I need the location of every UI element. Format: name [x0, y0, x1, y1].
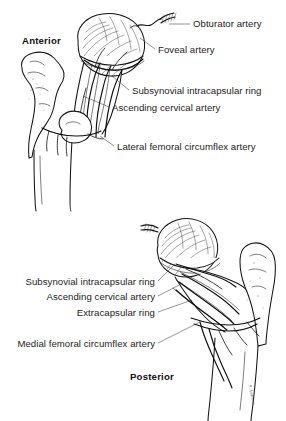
label-subsynovial-intracapsular-ring-2: Subsynovial intracapsular ring [26, 276, 155, 287]
orientation-label-anterior: Anterior [22, 35, 61, 46]
label-ascending-cervical-artery: Ascending cervical artery [112, 102, 221, 113]
shaft-inner-line-anterior [40, 156, 42, 204]
foveal-artery-stub-posterior [141, 224, 158, 232]
figure-canvas: R. Anderson Anterior Obturator artery Fo… [0, 0, 286, 421]
greater-trochanter-posterior [240, 243, 275, 346]
label-foveal-artery: Foveal artery [158, 44, 215, 55]
leader-lateral-femoral-circumflex-artery [100, 136, 114, 146]
label-ascending-cervical-artery-2: Ascending cervical artery [47, 291, 156, 302]
posterior-panel-labels: Subsynovial intracapsular ring Ascending… [17, 276, 174, 382]
leader-ascending-cervical-artery [83, 96, 109, 107]
medial-circumflex-branch-a [219, 331, 232, 355]
femoral-shaft-posterior-medial [208, 338, 215, 421]
lateral-circumflex-branch-c [47, 131, 49, 151]
leader-ascending-cervical-artery-2 [158, 283, 183, 296]
femoral-shaft-anterior-medial [70, 140, 72, 211]
lesser-trochanter-anterior [59, 111, 92, 143]
label-subsynovial-intracapsular-ring: Subsynovial intracapsular ring [132, 85, 261, 96]
lateral-circumflex-branch-b [66, 137, 67, 156]
extracapsular-ring-vessel [191, 318, 260, 325]
label-extracapsular-ring: Extracapsular ring [77, 307, 155, 318]
leader-medial-femoral-circumflex-artery [158, 322, 200, 343]
femoral-shaft-anterior-lateral [34, 150, 36, 211]
obturator-artery-vessel [160, 13, 176, 23]
lateral-circumflex-branch-a [57, 135, 58, 155]
foveal-artery-vessel [137, 19, 161, 26]
label-obturator-artery: Obturator artery [193, 18, 262, 29]
shaft-inner-line-posterior [240, 352, 245, 410]
leader-extracapsular-ring [158, 300, 192, 312]
orientation-label-posterior: Posterior [130, 371, 174, 382]
posterior-femur-drawing: R. Anderson [141, 219, 275, 421]
anatomical-figure: R. Anderson Anterior Obturator artery Fo… [0, 0, 286, 421]
label-lateral-femoral-circumflex-artery: Lateral femoral circumflex artery [117, 141, 256, 152]
label-medial-femoral-circumflex-artery: Medial femoral circumflex artery [17, 338, 155, 349]
